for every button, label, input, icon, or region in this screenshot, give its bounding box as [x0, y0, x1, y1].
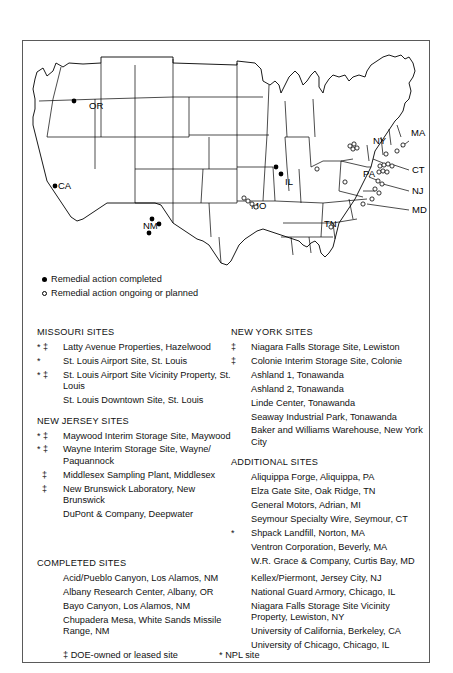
list-item: Acid/Pueblo Canyon, Los Alamos, NM	[63, 573, 231, 584]
map-marker-ongoing	[254, 205, 258, 209]
list-item: General Motors, Adrian, MI	[231, 500, 425, 511]
entry-text: Ventron Corporation, Beverly, MA	[251, 542, 425, 553]
list-item: * ‡ St. Louis Airport Site Vicinity Prop…	[37, 370, 233, 393]
list-item: University of California, Berkeley, CA	[251, 626, 425, 637]
entry-text: Seaway Industrial Park, Tonawanda	[251, 412, 425, 423]
map-marker-ongoing	[250, 202, 254, 206]
footnote-npl: * NPL site	[219, 649, 260, 661]
map-marker-ongoing	[377, 191, 381, 195]
legend-row-completed: Remedial action completed	[37, 273, 287, 286]
section-title-missouri: MISSOURI SITES	[37, 327, 233, 337]
entry-text: Maywood Interim Storage Site, Maywood	[63, 431, 233, 442]
list-item: Aliquippa Forge, Aliquippa, PA	[231, 472, 425, 483]
entry-text: Niagara Falls Storage Site, Lewiston	[251, 342, 425, 353]
list-item: Chupadera Mesa, White Sands Missile Rang…	[63, 615, 231, 638]
entry-marker: *	[37, 356, 63, 367]
entry-text: New Brunswick Laboratory, New Brunswick	[63, 484, 233, 507]
entry-text: Elza Gate Site, Oak Ridge, TN	[251, 486, 425, 497]
map-marker-completed	[274, 165, 279, 170]
entry-text: General Motors, Adrian, MI	[251, 500, 425, 511]
entry-marker: ‡	[231, 342, 251, 353]
map-label: NY	[373, 135, 387, 146]
map-marker-ongoing	[355, 146, 359, 150]
list-item: * Shpack Landfill, Norton, MA	[231, 528, 425, 539]
map-marker-ongoing	[351, 147, 355, 151]
list-item: Ashland 1, Tonawanda	[231, 370, 425, 381]
list-item: Ashland 2, Tonawanda	[231, 384, 425, 395]
entry-text: Wayne Interim Storage Site, Wayne/ Paqua…	[63, 444, 233, 467]
entry-text: Ashland 2, Tonawanda	[251, 384, 425, 395]
list-item: Ventron Corporation, Beverly, MA	[231, 542, 425, 553]
list-item: Niagara Falls Storage Site Vicinity Prop…	[251, 601, 425, 624]
list-item: Baker and Williams Warehouse, New York C…	[231, 425, 425, 448]
entry-marker: *	[231, 528, 251, 539]
map-marker-ongoing	[376, 179, 380, 183]
entry-marker: ‡	[231, 356, 251, 367]
us-map-svg: OR CA NM MO IL TN PA NY MA CT NJ MD	[23, 41, 429, 269]
list-item: * ‡ Wayne Interim Storage Site, Wayne/ P…	[37, 444, 233, 467]
map-marker-ongoing	[395, 149, 399, 153]
entry-text: Seymour Specialty Wire, Seymour, CT	[251, 514, 425, 525]
list-item: DuPont & Company, Deepwater	[37, 509, 233, 520]
list-item: Elza Gate Site, Oak Ridge, TN	[231, 486, 425, 497]
entry-text: Baker and Williams Warehouse, New York C…	[251, 425, 425, 448]
entry-text: Aliquippa Forge, Aliquippa, PA	[251, 472, 425, 483]
map-marker-ongoing	[385, 170, 389, 174]
map-marker-ongoing	[329, 225, 333, 229]
map-marker-ongoing	[390, 164, 394, 168]
map-marker-ongoing	[378, 164, 382, 168]
map-label: NM	[143, 220, 158, 231]
section-title-new-jersey: NEW JERSEY SITES	[37, 416, 233, 426]
map-label: OR	[89, 100, 103, 111]
list-item: Bayo Canyon, Los Alamos, NM	[63, 601, 231, 612]
list-item: Seymour Specialty Wire, Seymour, CT	[231, 514, 425, 525]
section-title-additional: ADDITIONAL SITES	[231, 457, 425, 467]
list-item: St. Louis Downtown Site, St. Louis	[37, 395, 233, 406]
entry-text: Linde Center, Tonawanda	[251, 398, 425, 409]
map-label: IL	[285, 176, 293, 187]
map-marker-ongoing	[315, 167, 319, 171]
map-label: NJ	[412, 185, 424, 196]
map-marker-ongoing	[373, 187, 377, 191]
figure-frame: OR CA NM MO IL TN PA NY MA CT NJ MD	[22, 40, 430, 663]
section-new-jersey: NEW JERSEY SITES * ‡ Maywood Interim Sto…	[37, 416, 233, 521]
legend-row-ongoing: Remedial action ongoing or planned	[37, 287, 287, 300]
list-item: ‡ Colonie Interim Storage Site, Colonie	[231, 356, 425, 367]
list-item: Kellex/Piermont, Jersey City, NJ	[251, 573, 425, 584]
entry-text: DuPont & Company, Deepwater	[63, 509, 233, 520]
entry-text: St. Louis Airport Site, St. Louis	[63, 356, 233, 367]
footnotes: ‡ DOE-owned or leased site * NPL site	[37, 649, 425, 661]
list-item: Linde Center, Tonawanda	[231, 398, 425, 409]
entry-text: St. Louis Downtown Site, St. Louis	[63, 395, 233, 406]
map-marker-completed	[150, 217, 155, 222]
map-label: MA	[411, 127, 426, 138]
section-title-new-york: NEW YORK SITES	[231, 327, 425, 337]
map-marker-completed	[279, 172, 284, 177]
entry-text: St. Louis Airport Site Vicinity Property…	[63, 370, 233, 393]
completed-column-one: Acid/Pueblo Canyon, Los Alamos, NM Alban…	[37, 573, 231, 654]
map-marker-ongoing	[381, 169, 385, 173]
map-marker-completed	[53, 184, 58, 189]
list-item: ‡ Niagara Falls Storage Site, Lewiston	[231, 342, 425, 353]
map-marker-ongoing	[361, 202, 365, 206]
entry-text: Colonie Interim Storage Site, Colonie	[251, 356, 425, 367]
map-marker-ongoing	[343, 180, 347, 184]
map-marker-ongoing	[242, 196, 246, 200]
map-marker-ongoing	[352, 142, 356, 146]
entry-marker: ‡	[37, 470, 63, 481]
entry-marker: * ‡	[37, 342, 63, 353]
map-label: CT	[412, 164, 425, 175]
map-marker-ongoing	[384, 152, 388, 156]
entry-text: Latty Avenue Properties, Hazelwood	[63, 342, 233, 353]
entry-marker: * ‡	[37, 444, 63, 455]
list-item: ‡ New Brunswick Laboratory, New Brunswic…	[37, 484, 233, 507]
legend-label-completed: Remedial action completed	[51, 273, 162, 285]
list-item: Seaway Industrial Park, Tonawanda	[231, 412, 425, 423]
entry-marker: * ‡	[37, 431, 63, 442]
map-marker-completed	[72, 99, 77, 104]
open-circle-icon	[37, 287, 51, 300]
list-item: * ‡ Latty Avenue Properties, Hazelwood	[37, 342, 233, 353]
section-title-completed: COMPLETED SITES	[37, 558, 425, 568]
list-item: * St. Louis Airport Site, St. Louis	[37, 356, 233, 367]
right-column: NEW YORK SITES ‡ Niagara Falls Storage S…	[231, 327, 425, 576]
